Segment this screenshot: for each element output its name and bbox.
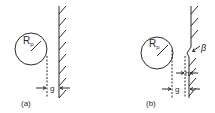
particle-circle: [15, 33, 47, 65]
angle-label-b: β: [200, 43, 206, 53]
gap-label-a: g: [50, 84, 54, 93]
step-label-b: h: [185, 69, 189, 78]
panel-a: [15, 6, 70, 98]
diagram-svg: Rp g (a): [0, 0, 215, 113]
radius-label-b: Rp: [149, 38, 160, 50]
radius-label-a: Rp: [23, 35, 34, 47]
panel-label-a: (a): [21, 99, 31, 108]
panel-b: [141, 6, 200, 98]
angle-arrow: [193, 46, 201, 52]
panel-label-b: (b): [146, 99, 156, 108]
gap-label-b: g: [175, 85, 179, 94]
wall-hatching: [59, 6, 66, 98]
figure: Rp g (a): [0, 0, 215, 113]
particle-circle: [141, 37, 173, 69]
